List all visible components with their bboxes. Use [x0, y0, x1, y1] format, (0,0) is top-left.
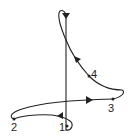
cycle-diagram: 1 2 3 4: [0, 0, 134, 140]
point-1: [66, 125, 69, 128]
arrow-down-icon: [62, 13, 70, 19]
label-1: 1: [59, 121, 65, 133]
point-3: [112, 98, 115, 101]
arrow-left-icon: [57, 112, 63, 119]
label-3: 3: [108, 102, 114, 114]
label-2: 2: [11, 121, 17, 133]
arrow-right-icon: [86, 96, 93, 104]
label-4: 4: [91, 68, 97, 80]
